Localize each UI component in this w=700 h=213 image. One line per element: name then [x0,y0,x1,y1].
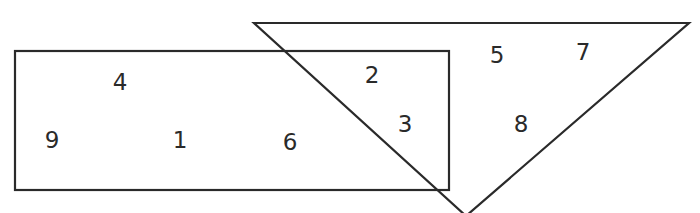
number-1: 1 [173,127,188,153]
number-7: 7 [576,39,591,65]
number-9: 9 [45,127,60,153]
number-3: 3 [398,111,413,137]
rectangle-set [15,51,449,190]
number-8: 8 [514,111,529,137]
number-6: 6 [283,129,298,155]
number-5: 5 [490,42,505,68]
number-labels: 4 9 1 6 2 3 5 7 8 [45,39,591,155]
number-2: 2 [365,62,380,88]
number-4: 4 [113,69,128,95]
venn-diagram: 4 9 1 6 2 3 5 7 8 [0,0,700,213]
